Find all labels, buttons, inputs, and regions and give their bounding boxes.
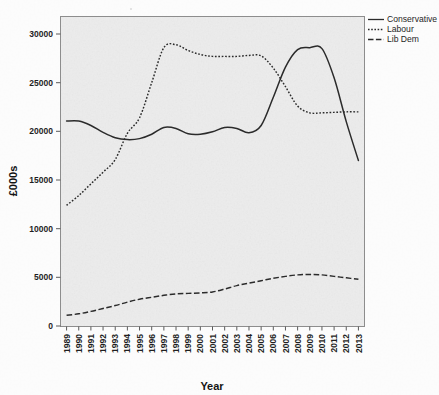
x-tick-label: 2004	[244, 334, 254, 353]
y-tick-label: 10000	[29, 224, 53, 234]
y-tick-label: 25000	[29, 78, 53, 88]
legend-label: Lib Dem	[387, 34, 419, 44]
y-axis-title: £000s	[7, 166, 19, 197]
y-tick-label: 30000	[29, 29, 53, 39]
plot-panel-grain	[61, 17, 364, 326]
legend-label: Conservative	[387, 14, 437, 24]
x-tick-label: 1993	[110, 334, 120, 353]
x-tick-label: 2003	[232, 334, 242, 353]
x-tick-label: 2006	[268, 334, 278, 353]
line-chart-figure: 0 5000 10000 15000 20000 25000 30000 £00…	[0, 0, 439, 395]
x-axis-title: Year	[200, 380, 224, 392]
x-tick-label: 1997	[159, 334, 169, 353]
x-tick-label: 2007	[281, 334, 291, 353]
x-tick-label: 2011	[329, 334, 339, 353]
x-tick-label: 1992	[98, 334, 108, 353]
x-tick-label: 1995	[135, 334, 145, 353]
x-tick-label: 2002	[220, 334, 230, 353]
x-tick-label: 1996	[147, 334, 157, 353]
y-tick-label: 0	[48, 321, 53, 331]
plot-panel	[61, 17, 365, 327]
y-tick-label: 15000	[29, 175, 53, 185]
x-tick-label: 2000	[195, 334, 205, 353]
x-tick-label: 1991	[86, 334, 96, 353]
x-tick-label: 1989	[62, 334, 72, 353]
scan-speck	[130, 8, 131, 9]
y-tick-label: 5000	[34, 272, 53, 282]
legend-label: Labour	[387, 24, 414, 34]
x-tick-label: 2008	[293, 334, 303, 353]
x-tick-label: 2012	[341, 334, 351, 353]
x-tick-label: 1999	[183, 334, 193, 353]
x-tick-label: 2001	[208, 334, 218, 353]
x-tick-label: 2005	[256, 334, 266, 353]
x-tick-label: 1998	[171, 334, 181, 353]
x-tick-label: 2013	[354, 334, 364, 353]
x-tick-label: 2009	[305, 334, 315, 353]
x-tick-label: 1994	[122, 334, 132, 353]
x-tick-label: 1990	[74, 334, 84, 353]
chart-canvas: 0 5000 10000 15000 20000 25000 30000 £00…	[0, 0, 439, 395]
x-tick-label: 2010	[317, 334, 327, 353]
y-tick-label: 20000	[29, 126, 53, 136]
